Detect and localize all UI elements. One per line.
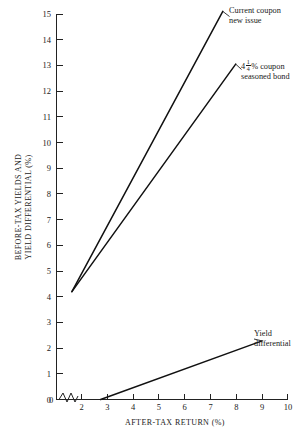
- y-tick-label: 13: [43, 60, 52, 70]
- coupon-rate-fraction: 14: [246, 59, 251, 72]
- y-axis-tick-labels: 0 1 2 3 4 5 6 7 8 9 10 11 12 13 14 15: [43, 9, 52, 405]
- annotation-line2: differential: [254, 339, 291, 349]
- coupon-rate-suffix: % coupon: [251, 62, 284, 71]
- y-tick-label: 6: [47, 240, 51, 250]
- y-tick-label: 2: [47, 343, 51, 353]
- chart-figure: 0 1 2 3 4 5 6 7 8 9 10 11 12 13 14 15: [0, 0, 305, 434]
- y-axis-title-line1: BEFORE-TAX YIELDS AND: [14, 154, 23, 261]
- x-tick-label: 6: [183, 402, 187, 412]
- y-tick-label: 1: [47, 369, 51, 379]
- y-tick-label: 9: [47, 163, 51, 173]
- annotation-line1: Yield: [254, 329, 291, 339]
- x-axis-tick-labels: 2 3 4 5 6 7 8 9 10: [79, 402, 292, 412]
- y-axis-title-line2: YIELD DIFFERENTIAL (%): [24, 155, 33, 260]
- annotation-line1: 414% coupon: [241, 59, 290, 72]
- y-tick-label: 7: [47, 215, 51, 225]
- series-line-yield-differential: [101, 341, 263, 400]
- x-tick-label: 3: [105, 402, 109, 412]
- series-line-current-coupon-new-issue: [72, 11, 223, 291]
- annotation-line2: seasoned bond: [241, 72, 290, 82]
- x-tick-label: 9: [260, 402, 264, 412]
- annotation-current-coupon-new-issue: Current coupon new issue: [229, 6, 281, 26]
- y-axis-ticks: [57, 14, 63, 400]
- x-tick-label: 7: [208, 402, 212, 412]
- x-axis-origin-label: 0: [49, 395, 53, 405]
- x-tick-label: 2: [79, 402, 83, 412]
- annotation-yield-differential: Yield differential: [254, 329, 291, 349]
- x-axis-title: AFTER-TAX RETURN (%): [125, 418, 225, 427]
- x-tick-label: 5: [157, 402, 161, 412]
- y-tick-label: 5: [47, 266, 51, 276]
- y-axis-title: BEFORE-TAX YIELDS AND YIELD DIFFERENTIAL…: [14, 154, 33, 261]
- series-line-seasoned-bond: [72, 64, 236, 292]
- x-tick-label: 10: [284, 402, 293, 412]
- y-tick-label: 14: [43, 35, 52, 45]
- coupon-rate-whole: 4: [241, 62, 245, 71]
- fraction-denominator: 4: [246, 65, 251, 72]
- x-axis-break-zigzag: [59, 393, 78, 402]
- y-tick-label: 4: [47, 292, 52, 302]
- y-tick-label: 8: [47, 189, 51, 199]
- y-tick-label: 10: [43, 138, 52, 148]
- x-tick-label: 4: [131, 402, 136, 412]
- x-tick-label: 8: [234, 402, 238, 412]
- y-tick-label: 15: [43, 9, 52, 19]
- y-tick-label: 3: [47, 317, 51, 327]
- annotation-line2: new issue: [229, 16, 281, 26]
- y-tick-label: 12: [43, 86, 52, 96]
- annotation-line1: Current coupon: [229, 6, 281, 16]
- y-tick-label: 11: [43, 112, 51, 122]
- annotation-seasoned-bond: 414% coupon seasoned bond: [241, 59, 290, 82]
